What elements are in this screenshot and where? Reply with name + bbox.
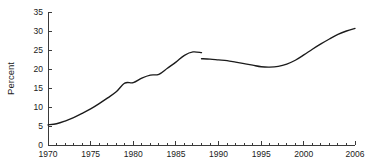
x-tick-label: 1985 xyxy=(166,149,185,159)
x-tick-label: 1970 xyxy=(39,149,58,159)
y-axis-title: Percent xyxy=(5,62,16,95)
y-tick-label: 15 xyxy=(34,83,44,93)
y-tick-label: 20 xyxy=(34,64,44,74)
x-tick-label: 1995 xyxy=(252,149,271,159)
x-tick-label: 1980 xyxy=(124,149,143,159)
y-tick-label: 10 xyxy=(34,102,44,112)
x-tick-label: 1975 xyxy=(81,149,100,159)
y-axis-title-text: Percent xyxy=(5,62,16,95)
y-tick-label: 0 xyxy=(38,140,43,150)
line-chart: 19701975198019851990199520002006 0510152… xyxy=(0,0,371,166)
plot-background xyxy=(0,0,371,166)
chart-figure: 19701975198019851990199520002006 0510152… xyxy=(0,0,371,166)
x-tick-label: 1990 xyxy=(209,149,228,159)
x-tick-label: 2006 xyxy=(346,149,365,159)
y-tick-label: 35 xyxy=(34,7,44,17)
y-tick-label: 5 xyxy=(38,121,43,131)
y-tick-label: 30 xyxy=(34,26,44,36)
x-tick-label: 2000 xyxy=(294,149,313,159)
y-tick-label: 25 xyxy=(34,45,44,55)
